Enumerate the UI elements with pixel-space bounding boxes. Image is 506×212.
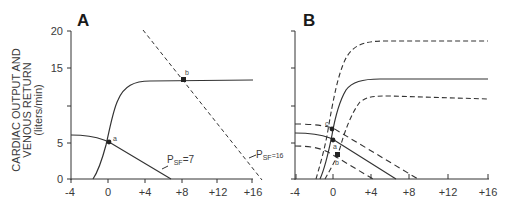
svg-text:b: b (335, 159, 339, 166)
y-tick-20: 20 (51, 25, 63, 37)
b-point-c (330, 127, 335, 132)
y-axis-label: CARDIAC OUTPUT AND VENOUS RETURN (liters… (10, 48, 44, 171)
b-cardiac-output-decreased (325, 96, 488, 179)
b-cardiac-output-increased (316, 41, 488, 179)
psf7-arrow (162, 166, 168, 169)
venous-return-psf7 (71, 135, 171, 179)
y-tick-5: 5 (57, 137, 63, 149)
x-tick-m4: -4 (65, 186, 75, 198)
equilibrium-point-b (181, 77, 186, 82)
x-tick-0: 0 (105, 186, 111, 198)
y-ticks-b (291, 31, 295, 179)
venous-return-psf16 (143, 30, 262, 180)
psf16-arrow (249, 155, 256, 158)
panel-a-title: A (77, 11, 89, 30)
svg-text:a: a (333, 143, 337, 150)
svg-text:b: b (185, 69, 189, 76)
panel-a: A CARDIAC OUTPUT AND VENOUS RETURN (lite… (10, 11, 284, 198)
svg-text:c: c (325, 120, 329, 127)
b-x-tick-12: +12 (439, 186, 458, 198)
psf7-label: PSF=7 (167, 154, 194, 166)
y-tick-15: 15 (51, 62, 63, 74)
b-venous-return-normal (295, 133, 396, 179)
x-tick-12: +12 (209, 186, 228, 198)
svg-text:(liters/min): (liters/min) (32, 84, 44, 135)
b-point-a (331, 138, 336, 143)
figure: A CARDIAC OUTPUT AND VENOUS RETURN (lite… (0, 0, 506, 212)
panel-b: B -4 0 +4 +8 +12 +16 (290, 11, 497, 198)
y-tick-0: 0 (57, 173, 63, 185)
x-tick-8: +8 (176, 186, 189, 198)
b-x-tick-m4: -4 (290, 186, 300, 198)
b-point-b (335, 152, 340, 157)
x-tick-4: +4 (139, 186, 152, 198)
x-ticks (71, 179, 252, 183)
b-cardiac-output-normal (320, 79, 488, 179)
b-x-tick-16: +16 (479, 186, 498, 198)
b-x-tick-8: +8 (403, 186, 416, 198)
x-tick-16: +16 (244, 186, 263, 198)
b-x-tick-4: +4 (365, 186, 378, 198)
equilibrium-point-a (107, 140, 112, 145)
y-ticks (67, 31, 71, 179)
b-venous-return-increased (295, 124, 418, 179)
panel-b-title: B (303, 11, 315, 30)
psf16-label: PSF=16 (256, 149, 284, 161)
b-x-tick-0: 0 (330, 186, 336, 198)
svg-text:a: a (113, 135, 117, 142)
